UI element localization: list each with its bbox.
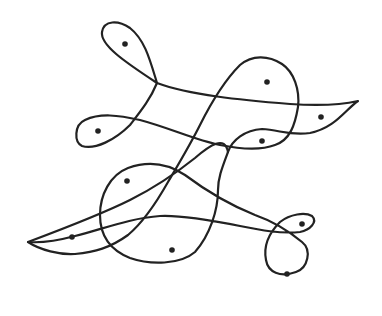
middle-curve [76,83,298,149]
dot-marker [124,178,130,184]
dot-marker [264,79,270,85]
dot-marker [259,138,265,144]
dot-marker [69,234,75,240]
dot-marker [122,41,128,47]
dot-marker [169,247,175,253]
lower-loop [28,164,314,274]
knot-diagram [0,0,382,316]
lower-curve [28,143,228,254]
dot-marker [299,221,305,227]
dot-marker [318,114,324,120]
dot-marker [284,271,290,277]
dot-marker [95,128,101,134]
curve-drawing [0,0,382,316]
upper-loop [75,57,298,254]
